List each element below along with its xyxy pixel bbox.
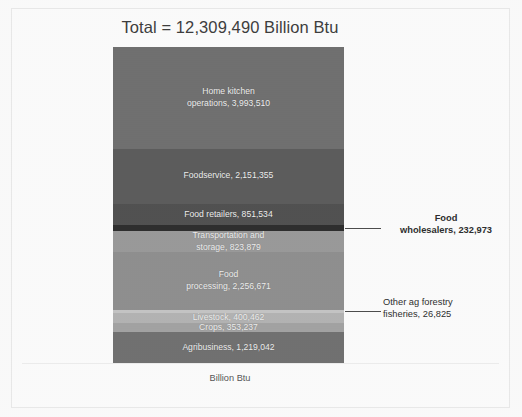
bar-segment-label-crops: Crops, 353,237 [199, 323, 258, 332]
bar-segment-label-agribusiness: Agribusiness, 1,219,042 [182, 342, 274, 354]
bar-segment-label-foodservice: Foodservice, 2,151,355 [184, 170, 274, 182]
bar-segment-label-transportation-and-storage: Transportation and storage, 823,879 [193, 231, 265, 252]
bar-segment-agribusiness[interactable]: Agribusiness, 1,219,042 [113, 332, 344, 363]
callout-other-ag-forestry-fisheries: Other ag forestry fisheries, 26,825 [383, 296, 522, 320]
axis-caption: Billion Btu [0, 373, 460, 383]
callout-food-wholesalers: Food wholesalers, 232,973 [376, 212, 516, 236]
bar-segment-label-livestock: Livestock, 400,462 [193, 313, 265, 323]
bar-segment-foodservice[interactable]: Foodservice, 2,151,355 [113, 149, 344, 204]
axis-baseline [22, 363, 499, 364]
bar-segment-food-processing[interactable]: Food processing, 2,256,671 [113, 252, 344, 309]
bar-segment-label-home-kitchen-operations: Home kitchen operations, 3,993,510 [187, 86, 270, 109]
bar-segment-label-food-processing: Food processing, 2,256,671 [186, 269, 271, 292]
bar-segment-crops[interactable]: Crops, 353,237 [113, 323, 344, 332]
leader-line-other-ag-forestry-fisheries [345, 311, 381, 312]
bar-segment-livestock[interactable]: Livestock, 400,462 [113, 313, 344, 323]
bar-segment-food-retailers[interactable]: Food retailers, 851,534 [113, 204, 344, 226]
bar-segment-label-food-retailers: Food retailers, 851,534 [184, 209, 272, 221]
chart-root: Total = 12,309,490 Billion Btu Home kitc… [0, 0, 522, 417]
bar-segment-transportation-and-storage[interactable]: Transportation and storage, 823,879 [113, 231, 344, 252]
stacked-bar-column: Home kitchen operations, 3,993,510Foodse… [113, 47, 344, 363]
bar-segment-home-kitchen-operations[interactable]: Home kitchen operations, 3,993,510 [113, 47, 344, 149]
chart-title: Total = 12,309,490 Billion Btu [0, 18, 460, 37]
